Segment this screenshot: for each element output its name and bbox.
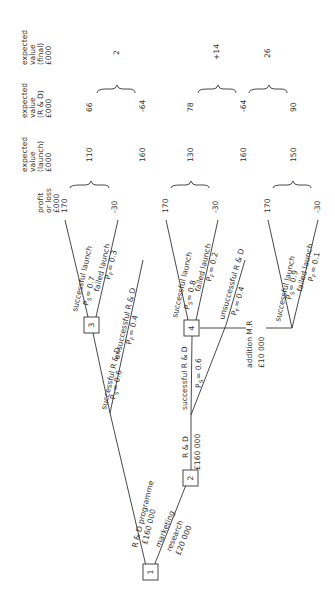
ev-rd-value: 78: [186, 102, 195, 112]
svg-text:4: 4: [187, 325, 196, 330]
header-ev-final: expected value (final) £000: [20, 30, 53, 65]
ev-launch-value: 160: [138, 147, 147, 162]
profit-value: -30: [110, 200, 119, 213]
brace-ev-rd-mid: [198, 85, 236, 93]
profit-value: 170: [161, 198, 170, 213]
label-mid-successful-rd: successful R & D: [180, 346, 189, 410]
decision-tree-diagram: 1 2 3 4 R & D programme £160 000 marketi…: [0, 0, 335, 604]
svg-text:= 0.6: = 0.6: [194, 358, 203, 379]
svg-text:£000: £000: [44, 153, 53, 172]
node-1: 1: [143, 564, 158, 580]
svg-text:2: 2: [186, 475, 195, 480]
label-additional-mr-cost: £10 000: [257, 336, 266, 368]
svg-text:£000: £000: [44, 46, 53, 65]
ev-launch-value: 150: [289, 147, 298, 162]
ev-rd-value: -64: [138, 99, 147, 112]
profit-value: -30: [313, 200, 322, 213]
profit-value: 170: [60, 198, 69, 213]
brace-profit-mid: [171, 181, 209, 188]
brace-ev-rd-bot: [249, 85, 287, 93]
ev-final-value: 26: [263, 48, 272, 58]
ev-rd-value: 90: [289, 102, 298, 112]
brace-profit-top: [70, 181, 109, 188]
ev-launch-value: 160: [239, 147, 248, 162]
label-rd-after-mr: R & D: [181, 436, 190, 458]
brace-profit-bot: [273, 181, 311, 188]
header-profit: profit or loss £000: [36, 188, 61, 213]
branch-mid-successful-rd: [191, 336, 192, 415]
node-2: 2: [183, 470, 198, 486]
svg-text:3: 3: [87, 322, 96, 327]
ev-rd-value: 66: [85, 102, 94, 112]
label-mid-unsuccessful-rd: unsuccessful R & D: [217, 248, 246, 321]
node-3: 3: [84, 317, 99, 333]
label-additional-mr: addition M.R: [245, 320, 254, 368]
label-mid-successful-rd-prob: P S = 0.6: [194, 358, 204, 388]
header-ev-rd: expected value (R & D) £000: [20, 83, 53, 118]
ev-rd-value: -64: [239, 99, 248, 112]
svg-text:£000: £000: [44, 99, 53, 118]
profit-value: 170: [263, 198, 272, 213]
node-4: 4: [184, 320, 199, 336]
ev-launch-value: 130: [186, 147, 195, 162]
brace-ev-rd-top: [97, 85, 135, 93]
label-rd-after-mr-cost: £160 000: [193, 434, 202, 470]
profit-value: -30: [211, 200, 220, 213]
ev-launch-value: 110: [85, 147, 94, 162]
ev-final-value: 2: [112, 50, 121, 55]
svg-text:1: 1: [146, 569, 155, 574]
ev-final-value: +14: [212, 44, 221, 60]
header-ev-launch: expected value (launch) £000: [20, 137, 53, 172]
